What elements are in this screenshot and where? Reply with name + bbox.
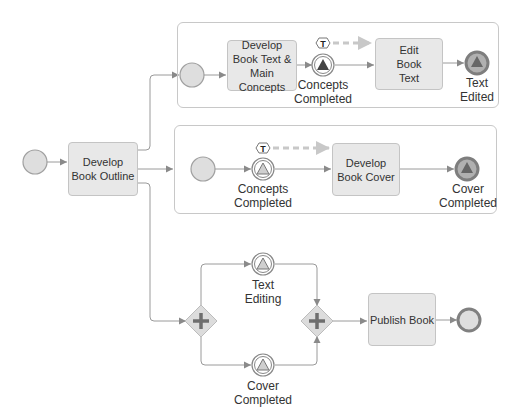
text-editing-icon	[252, 253, 274, 275]
task-label: Develop Book Cover	[333, 156, 399, 184]
label-concepts-completed-mid: Concepts Completed	[233, 182, 293, 210]
task-label: Edit Book Text	[376, 43, 442, 85]
start-event-icon	[23, 150, 47, 174]
label-cover-completed-mid: Cover Completed	[437, 182, 499, 210]
task-develop-book-cover[interactable]: Develop Book Cover	[332, 143, 400, 196]
parallel-join-gateway-icon	[301, 305, 333, 337]
task-label: Publish Book	[370, 313, 434, 327]
task-develop-book-text[interactable]: Develop Book Text & Main Concepts	[227, 40, 297, 91]
flow-split-to-covercompleted	[201, 335, 251, 365]
label-cover-completed-bottom: Cover Completed	[231, 379, 295, 407]
flow-outline-to-top-pool	[138, 75, 179, 150]
task-develop-book-outline[interactable]: Develop Book Outline	[68, 142, 138, 196]
task-label: Develop Book Text & Main Concepts	[228, 38, 296, 94]
task-publish-book[interactable]: Publish Book	[368, 293, 436, 346]
cover-completed-bottom-icon	[252, 354, 274, 376]
parallel-split-gateway-icon	[185, 305, 217, 337]
task-edit-book-text[interactable]: Edit Book Text	[375, 38, 443, 90]
label-concepts-completed-top: Concepts Completed	[293, 78, 353, 106]
label-text-editing: Text Editing	[238, 278, 288, 306]
end-event-icon	[458, 309, 480, 331]
label-text-edited: Text Edited	[457, 76, 497, 104]
flow-covercompleted-to-join	[275, 336, 317, 365]
task-label: Develop Book Outline	[69, 155, 137, 183]
